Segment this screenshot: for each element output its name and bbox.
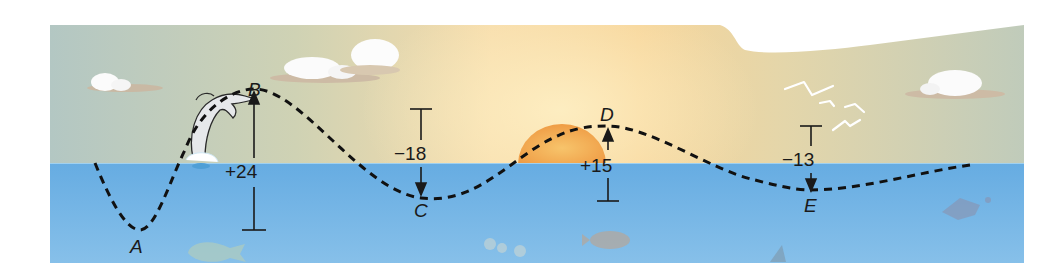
point-label-d: D — [600, 104, 614, 126]
diagram-scene — [0, 0, 1060, 278]
change-value-a-b: +24 — [225, 161, 257, 183]
point-label-a: A — [130, 236, 143, 258]
change-value-d-e: −13 — [782, 149, 814, 171]
point-label-c: C — [414, 200, 428, 222]
point-label-e: E — [804, 195, 817, 217]
change-value-c-d: +15 — [580, 155, 612, 177]
change-value-b-c: −18 — [394, 143, 426, 165]
point-label-b: B — [248, 79, 261, 101]
